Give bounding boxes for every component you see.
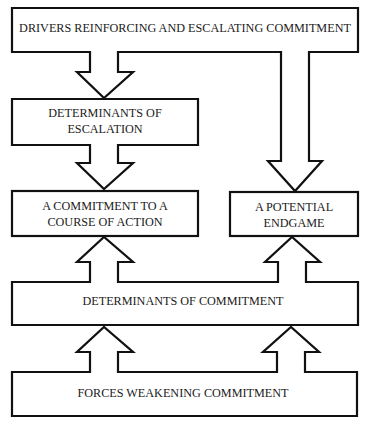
determinants-commitment-box [12, 237, 358, 325]
potential-endgame-label-line1: A POTENTIAL [255, 200, 333, 214]
drivers-label: DRIVERS REINFORCING AND ESCALATING COMMI… [19, 21, 351, 35]
determinants-escalation-label-line1: DETERMINANTS OF [48, 106, 162, 120]
potential-endgame-label-line2: ENDGAME [264, 216, 325, 230]
forces-weakening-box [12, 327, 357, 416]
escalation-diagram: DRIVERS REINFORCING AND ESCALATING COMMI… [0, 0, 368, 433]
determinants-escalation-label-line2: ESCALATION [67, 122, 142, 136]
commitment-course-label-line2: COURSE OF ACTION [47, 215, 162, 229]
commitment-course-label-line1: A COMMITMENT TO A [42, 199, 168, 213]
forces-weakening-label: FORCES WEAKENING COMMITMENT [77, 386, 289, 400]
determinants-commitment-label: DETERMINANTS OF COMMITMENT [82, 294, 284, 308]
commitment-course-box [12, 191, 198, 236]
